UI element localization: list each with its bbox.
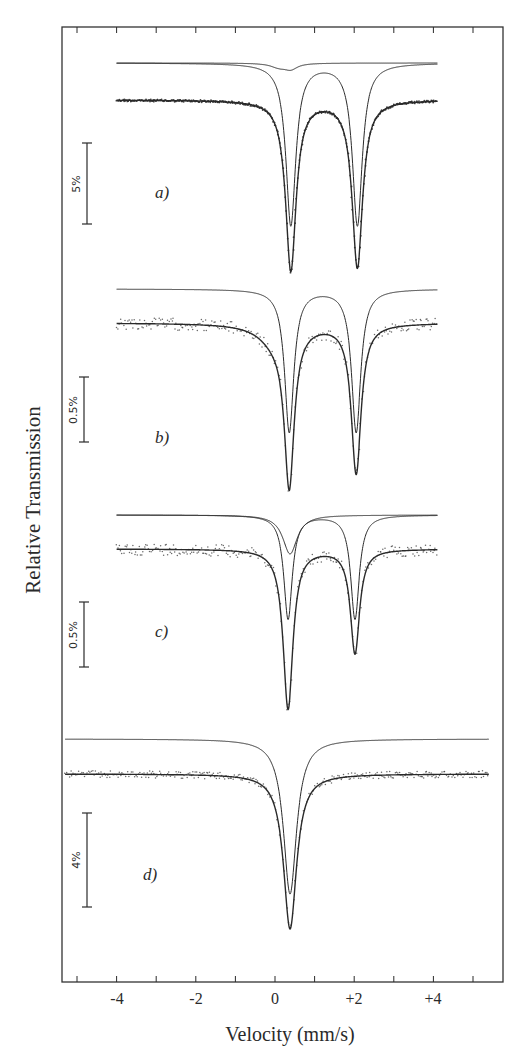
x-tick-label-pos4: +4	[424, 990, 441, 1008]
mossbauer-chart	[0, 0, 516, 1064]
scale-bars	[79, 143, 92, 907]
panel-label-b: b)	[155, 428, 169, 448]
x-tick-label-neg4: -4	[110, 990, 123, 1008]
axis-ticks	[77, 27, 473, 982]
x-tick-label-0: 0	[271, 990, 279, 1008]
x-tick-label-neg2: -2	[189, 990, 202, 1008]
panel-label-c: c)	[155, 622, 168, 642]
data-points-d	[64, 770, 489, 929]
fit-curve-d	[65, 774, 489, 929]
panel-label-d: d)	[143, 865, 157, 885]
subspectrum-b-0	[117, 289, 438, 433]
y-axis-label: Relative Transmission	[21, 406, 46, 593]
subspectrum-c-1	[117, 515, 438, 620]
x-tick-label-pos2: +2	[345, 990, 362, 1008]
scale-bar-label-a: 5%	[70, 175, 83, 192]
fit-curve-b	[117, 324, 438, 491]
scale-bar-label-c: 0.5%	[67, 621, 80, 649]
scale-bar-label-b: 0.5%	[67, 396, 80, 424]
spectra-curves	[64, 63, 489, 929]
data-points-b	[116, 317, 438, 491]
scale-bar-label-d: 4%	[70, 851, 83, 868]
x-axis-label: Velocity (mm/s)	[225, 1023, 354, 1046]
panel-label-a: a)	[155, 183, 169, 203]
